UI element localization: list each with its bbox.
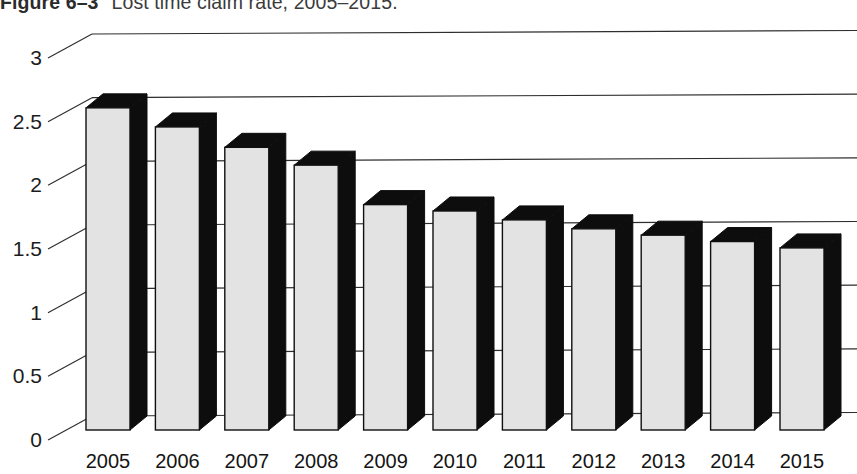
x-axis-tick-label: 2008 <box>294 450 339 472</box>
bar-2007 <box>225 133 286 430</box>
gridline-3 <box>92 31 857 35</box>
bar-side-face <box>616 215 633 430</box>
bar-front-face <box>155 127 199 430</box>
bar-front-face <box>711 242 755 430</box>
bar-2005 <box>86 94 147 430</box>
bar-front-face <box>86 108 130 430</box>
bar-side-face <box>199 113 216 430</box>
x-axis-tick-label: 2010 <box>433 450 478 472</box>
y-axis-tick-label: 1.5 <box>13 237 42 260</box>
bar-front-face <box>225 147 269 430</box>
x-axis-tick-label: 2012 <box>572 450 617 472</box>
bar-chart: 00.511.522.53 20052006200720082009201020… <box>0 0 857 474</box>
chart-svg: 00.511.522.53 20052006200720082009201020… <box>0 0 857 474</box>
bars-group <box>86 94 841 430</box>
x-axis-tick-label: 2015 <box>780 450 825 472</box>
figure-page: Figure 6–3Lost time claim rate, 2005–201… <box>0 0 857 474</box>
bar-front-face <box>294 165 338 430</box>
bar-2015 <box>780 234 841 430</box>
bar-2009 <box>364 191 425 430</box>
x-axis-tick-label: 2011 <box>503 450 546 472</box>
bar-2012 <box>572 215 633 430</box>
bar-2006 <box>155 113 216 430</box>
x-axis-tick-label: 2007 <box>225 450 270 472</box>
y-axis-tick-label: 0.5 <box>13 364 42 387</box>
y-axis-tick-label: 0 <box>30 428 42 451</box>
gridline-2.5 <box>92 94 857 98</box>
bar-front-face <box>572 229 616 430</box>
bar-2010 <box>433 197 494 430</box>
bar-front-face <box>641 235 685 430</box>
y-axis-tick-label: 1 <box>30 301 42 324</box>
bar-front-face <box>780 248 824 430</box>
x-axis-tick-label: 2006 <box>155 450 200 472</box>
y-axis-tick-label: 2 <box>30 173 42 196</box>
bar-2014 <box>711 228 772 430</box>
bar-side-face <box>755 228 772 430</box>
x-axis-labels-group: 2005200620072008200920102011201220132014… <box>86 450 825 472</box>
y-axis-tick-label: 2.5 <box>13 110 42 133</box>
bar-side-face <box>130 94 147 430</box>
x-axis-tick-label: 2005 <box>86 450 131 472</box>
bar-side-face <box>477 197 494 430</box>
bar-side-face <box>685 221 702 430</box>
x-axis-tick-label: 2014 <box>710 450 755 472</box>
y-axis-labels-group: 00.511.522.53 <box>13 46 42 451</box>
y-axis-tick-label: 3 <box>30 46 42 69</box>
bar-front-face <box>502 220 546 430</box>
bar-front-face <box>433 211 477 430</box>
bar-side-face <box>269 133 286 430</box>
bar-side-face <box>824 234 841 430</box>
bar-2008 <box>294 151 355 430</box>
bar-front-face <box>364 205 408 430</box>
bar-2011 <box>502 206 563 430</box>
bar-side-face <box>546 206 563 430</box>
bar-side-face <box>338 151 355 430</box>
bar-2013 <box>641 221 702 430</box>
tick-connector-3 <box>48 34 92 58</box>
x-axis-tick-label: 2013 <box>641 450 686 472</box>
x-axis-tick-label: 2009 <box>363 450 408 472</box>
bar-side-face <box>408 191 425 430</box>
